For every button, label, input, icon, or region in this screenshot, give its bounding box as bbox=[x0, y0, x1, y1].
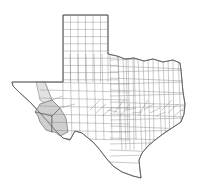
texas-county-map bbox=[0, 0, 208, 190]
texas-outline bbox=[12, 15, 185, 178]
